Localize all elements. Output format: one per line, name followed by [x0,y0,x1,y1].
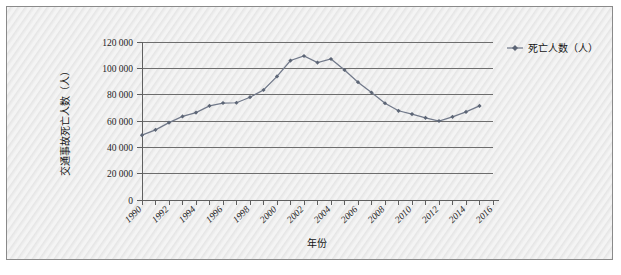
x-axis: 1990 1992 1994 1996 1998 2000 2002 2004 … [123,200,499,249]
y-tick-label-80000: 80 000 [107,90,133,100]
data-point-1996 [221,101,225,105]
data-point-2015 [477,104,481,108]
y-axis: 120 000 100 000 80 000 60 000 40 000 20 … [59,38,142,206]
data-point-1997 [234,101,238,105]
data-point-2011 [423,116,427,120]
data-point-2014 [464,110,468,114]
data-point-1990 [140,133,144,137]
x-tick-label-1996: 1996 [204,204,225,225]
data-point-1993 [180,114,184,118]
data-point-2003 [315,60,319,64]
x-tick-label-2008: 2008 [366,204,387,225]
y-tick-label-100000: 100 000 [102,64,133,74]
x-axis-title: 年份 [307,237,327,249]
plot-area: 120 000 100 000 80 000 60 000 40 000 20 … [7,7,612,259]
chart-figure: 120 000 100 000 80 000 60 000 40 000 20 … [6,6,613,260]
data-point-2010 [410,112,414,116]
data-point-2013 [450,115,454,119]
x-tick-label-2012: 2012 [420,204,441,225]
x-tick-label-2010: 2010 [393,204,414,225]
y-tick-label-40000: 40 000 [107,143,133,153]
line-chart: 120 000 100 000 80 000 60 000 40 000 20 … [7,7,613,260]
chart-legend: 死亡人数（人） [507,42,598,54]
x-tick-label-2002: 2002 [285,204,306,225]
y-tick-label-20000: 20 000 [107,169,133,179]
data-series-deaths [140,54,482,137]
x-tick-label-1992: 1992 [150,204,171,225]
x-tick-label-2006: 2006 [339,204,360,225]
data-point-2002 [302,54,306,58]
data-point-1994 [194,111,198,115]
legend-label-deaths: 死亡人数（人） [528,42,598,54]
x-tick-label-1998: 1998 [231,204,252,225]
x-tick-label-2016: 2016 [474,204,495,225]
data-point-2012 [437,119,441,123]
x-tick-label-2014: 2014 [447,204,468,225]
legend-marker-icon [512,45,518,51]
y-axis-title: 交通事故死亡人数（人） [59,66,71,176]
y-tick-label-60000: 60 000 [107,117,133,127]
x-tick-label-2000: 2000 [258,204,279,225]
x-tick-label-2004: 2004 [312,204,333,225]
y-tick-label-120000: 120 000 [102,38,133,48]
x-tick-label-1994: 1994 [177,204,198,225]
data-point-1995 [207,104,211,108]
x-tick-label-1990: 1990 [123,204,144,225]
y-tick-label-0: 0 [128,196,133,206]
